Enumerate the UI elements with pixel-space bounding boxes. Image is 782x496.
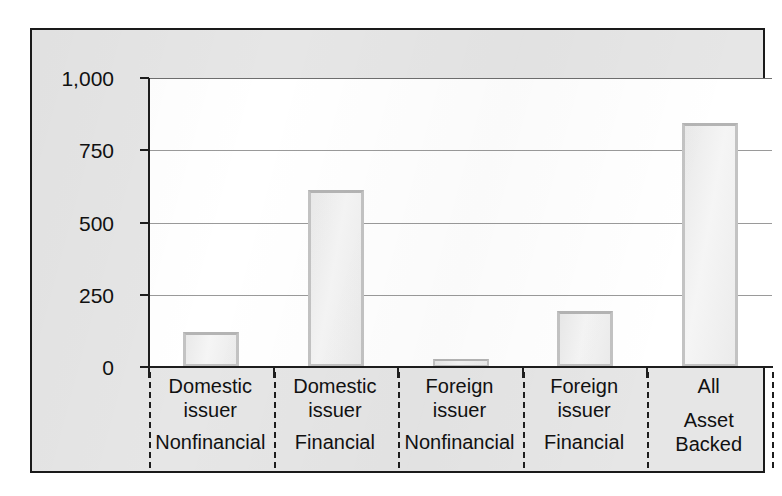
- plot-area: [149, 78, 772, 367]
- category-bottom-line2: Backed: [675, 433, 742, 455]
- gridline-1000: [149, 78, 772, 79]
- category-bottom-line1: Nonfinancial: [404, 431, 514, 453]
- y-axis-line: [148, 78, 150, 368]
- category-top-line2: issuer: [433, 399, 486, 421]
- category-label-band: Domestic issuer Nonfinancial Domestic is…: [148, 368, 773, 471]
- category-top-line1: Domestic: [169, 375, 252, 397]
- y-tick-label: 1,000: [14, 68, 114, 89]
- bar-domestic-issuer-financial: [308, 190, 364, 367]
- category-top-line1: Foreign: [426, 375, 494, 397]
- category-cell-0: Domestic issuer Nonfinancial: [148, 368, 273, 471]
- category-top-label: Foreign issuer: [397, 374, 522, 422]
- bar-domestic-issuer-nonfinancial: [183, 332, 239, 367]
- y-tick-label: 0: [14, 357, 114, 378]
- category-top-line2: issuer: [557, 399, 610, 421]
- category-bottom-line1: Financial: [295, 431, 375, 453]
- gridline-750: [149, 150, 772, 151]
- category-top-label: Foreign issuer: [522, 374, 647, 422]
- category-separator: [149, 372, 151, 468]
- category-separator: [772, 372, 774, 468]
- category-bottom-label: Financial: [273, 430, 398, 454]
- category-bottom-label: Financial: [522, 430, 647, 454]
- category-bottom-line1: Nonfinancial: [155, 431, 265, 453]
- category-bottom-label: Nonfinancial: [397, 430, 522, 454]
- category-top-line1: All: [698, 375, 720, 397]
- category-top-line1: Foreign: [550, 375, 618, 397]
- y-axis-labels: 1,000 750 500 250 0: [32, 30, 114, 471]
- category-cell-2: Foreign issuer Nonfinancial: [397, 368, 522, 471]
- category-top-label: All: [646, 374, 771, 398]
- category-cell-1: Domestic issuer Financial: [273, 368, 398, 471]
- category-separator: [398, 372, 400, 468]
- bar-foreign-issuer-financial: [557, 311, 613, 367]
- y-tick-label: 750: [14, 140, 114, 161]
- category-top-label: Domestic issuer: [273, 374, 398, 422]
- category-bottom-label: Asset Backed: [646, 408, 771, 456]
- category-bottom-line1: Asset: [684, 409, 734, 431]
- category-separator: [274, 372, 276, 468]
- gridline-250: [149, 295, 772, 296]
- figure-canvas: 1,000 750 500 250 0: [0, 0, 782, 496]
- category-separator: [523, 372, 525, 468]
- chart-panel: 1,000 750 500 250 0: [30, 28, 765, 473]
- gridline-500: [149, 223, 772, 224]
- category-bottom-line1: Financial: [544, 431, 624, 453]
- category-cell-4: All Asset Backed: [646, 368, 771, 471]
- category-top-line1: Domestic: [293, 375, 376, 397]
- y-tick-label: 500: [14, 212, 114, 233]
- category-top-line2: issuer: [308, 399, 361, 421]
- category-top-line2: issuer: [184, 399, 237, 421]
- category-separator: [647, 372, 649, 468]
- y-tick-label: 250: [14, 284, 114, 305]
- bar-all-asset-backed: [682, 123, 738, 367]
- category-top-label: Domestic issuer: [148, 374, 273, 422]
- category-cell-3: Foreign issuer Financial: [522, 368, 647, 471]
- category-bottom-label: Nonfinancial: [148, 430, 273, 454]
